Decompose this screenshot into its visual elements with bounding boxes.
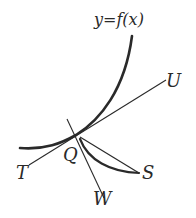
point-w-label: W (93, 190, 112, 208)
curve-label: y=f(x) (94, 12, 144, 28)
point-q-label: Q (63, 146, 78, 164)
tangent-normal-diagram (0, 0, 196, 218)
curve-f-of-x (20, 36, 132, 148)
point-t-label: T (16, 164, 28, 182)
tangent-line (29, 80, 166, 165)
point-u-label: U (166, 72, 181, 90)
point-s-label: S (142, 164, 154, 182)
